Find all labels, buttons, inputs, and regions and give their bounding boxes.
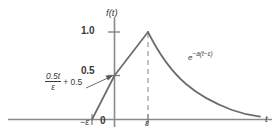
y-tick-label-0.5: 0.5: [81, 66, 94, 76]
y-tick-label-1.0: 1.0: [81, 26, 94, 36]
x-tick-label-zero: 0: [100, 116, 106, 126]
fraction-denominator: ε: [51, 83, 55, 92]
fraction-numerator: 0.5t: [45, 72, 61, 81]
linear-label-leader-line: [86, 77, 110, 88]
exponential-decay-curve: [148, 32, 260, 117]
y-axis-label: f(t): [106, 8, 118, 18]
exponential-equation-annotation: e−a(t−ε): [188, 51, 213, 62]
fraction: 0.5t ε: [45, 72, 61, 92]
x-tick-label-neg-epsilon: −ε: [80, 118, 89, 127]
linear-equation-annotation: 0.5t ε + 0.5: [45, 72, 82, 92]
x-tick-label-epsilon: ε: [145, 119, 149, 128]
x-axis-label: t: [265, 114, 268, 124]
plot-canvas: [0, 0, 278, 137]
figure-container: f(t) 1.0 0.5 −ε 0 ε t e−a(t−ε) 0.5t ε + …: [0, 0, 278, 137]
linear-equation-trailing-term: + 0.5: [63, 78, 82, 87]
exponential-exponent: −a(t−ε): [192, 50, 212, 57]
